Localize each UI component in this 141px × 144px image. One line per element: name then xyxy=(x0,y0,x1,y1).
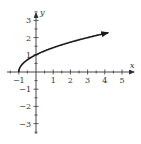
x-tick-label: 3 xyxy=(85,76,90,85)
x-tick-label: 1 xyxy=(51,76,56,85)
y-tick-label: −3 xyxy=(19,120,31,129)
x-tick-label: 4 xyxy=(102,76,107,85)
y-tick-label: 3 xyxy=(26,16,31,25)
function-curve xyxy=(19,33,108,72)
x-tick-label: 5 xyxy=(119,76,124,85)
y-axis-label: y xyxy=(39,8,45,17)
x-tick-label: −1 xyxy=(13,76,25,85)
y-tick-label: −1 xyxy=(19,85,31,94)
y-tick-label: −2 xyxy=(19,102,31,111)
function-graph: −112345 321−1−2−3 x y xyxy=(0,0,141,144)
x-axis-label: x xyxy=(130,61,135,70)
y-tick-label: 2 xyxy=(26,34,31,43)
x-tick-label: 2 xyxy=(68,76,73,85)
